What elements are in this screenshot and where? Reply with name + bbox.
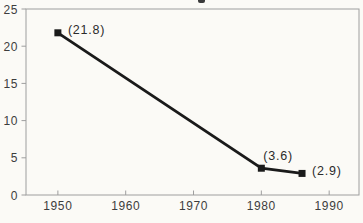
x-tick-label: 1970 bbox=[179, 199, 208, 213]
x-tick-label: 1980 bbox=[247, 199, 276, 213]
data-point-marker bbox=[299, 170, 306, 177]
x-tick-label: 1950 bbox=[43, 199, 72, 213]
y-tick-label: 10 bbox=[3, 114, 18, 128]
data-point-marker bbox=[54, 29, 61, 36]
data-point-marker bbox=[258, 165, 265, 172]
line-chart: 051015202519501960197019801990(21.8)(3.6… bbox=[0, 0, 363, 223]
y-tick-label: 0 bbox=[11, 189, 18, 203]
data-point-label: (21.8) bbox=[68, 23, 105, 37]
x-tick-label: 1960 bbox=[111, 199, 140, 213]
data-point-label: (3.6) bbox=[263, 149, 293, 163]
y-tick-label: 15 bbox=[3, 77, 18, 91]
plot-frame bbox=[26, 9, 359, 195]
chart-canvas: 051015202519501960197019801990(21.8)(3.6… bbox=[0, 0, 363, 223]
data-point-label: (2.9) bbox=[312, 164, 342, 178]
y-tick-label: 25 bbox=[3, 3, 18, 17]
y-tick-label: 5 bbox=[11, 151, 18, 165]
y-tick-label: 20 bbox=[3, 40, 18, 54]
cropped-title-fragment-mark bbox=[198, 0, 205, 3]
x-tick-label: 1990 bbox=[315, 199, 344, 213]
